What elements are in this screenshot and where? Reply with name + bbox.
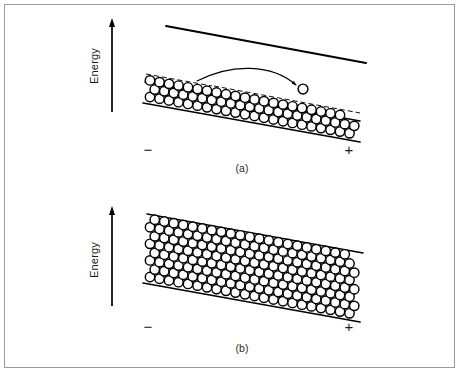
polarity-positive-b: + [345,318,354,335]
lattice-particle [255,234,264,243]
figure-root: Energy−+(a) Energy−+(b) [0,0,460,373]
lattice-particle [188,222,197,231]
lattice-particle [236,231,245,240]
energy-axis-b: Energy [88,206,115,306]
lattice-particle [221,90,230,99]
lattice-particle [321,246,330,255]
lattice-particle [164,79,173,88]
lattice-particle [264,236,273,245]
panel-caption-a: (a) [236,162,249,174]
lattice-particle [174,81,183,90]
excited-particle [298,84,308,94]
lattice-particle [155,77,164,86]
lattice-particle [160,217,169,226]
lattice-particle [316,107,325,116]
lattice-particle [350,121,359,130]
lattice-particle [150,215,159,224]
lattice-particle [226,229,235,238]
panel-b: Energy−+(b) [88,206,363,354]
energy-axis-arrowhead-b [109,206,115,215]
lattice-particle [179,220,188,229]
lattice-particle [345,259,354,268]
vacuum-level-line-a [166,26,366,63]
lattice-particle [169,219,178,228]
lattice-particle [231,91,240,100]
polarity-positive-a: + [345,141,354,158]
polarity-negative-b: − [144,318,153,335]
lattice-particle [183,83,192,92]
panel-a: Energy−+(a) [88,18,366,174]
energy-band-diagram: Energy−+(a) Energy−+(b) [0,0,460,373]
lattice-particle [278,100,287,109]
lattice-particle [331,248,340,257]
lattice-particle [288,102,297,111]
lattice-particle [297,103,306,112]
lattice-particle [283,239,292,248]
lattice-particle [350,268,359,277]
lattice-particle [193,84,202,93]
lattice-particle [269,98,278,107]
lattice-particle [340,250,349,259]
energy-axis-a: Energy [88,18,115,112]
excitation-arrow [197,68,296,85]
excitation-arrow-path [197,68,296,85]
lattice-particle [202,86,211,95]
lattice-particle [350,301,359,310]
polarity-negative-a: − [144,141,153,158]
lattice-particle [240,93,249,102]
lattice-particle [312,244,321,253]
lattice-particle [259,96,268,105]
panel-caption-b: (b) [236,342,249,354]
lattice-particle [245,232,254,241]
energy-axis-arrowhead-a [109,18,115,27]
lattice-particle [350,285,359,294]
lattice-particle [274,238,283,247]
lattice-particle [207,225,216,234]
lattice-particle [335,110,344,119]
lattice-particle [198,224,207,233]
lattice-particle [293,241,302,250]
lattice-particle [212,88,221,97]
lattice-particle [145,76,154,85]
lattice-particle [302,243,311,252]
lattice-particle [326,109,335,118]
lattice-particle [217,227,226,236]
energy-axis-label-b: Energy [88,242,100,278]
lattice-particle [340,119,349,128]
energy-axis-label-a: Energy [88,48,100,84]
lattice-particle [307,105,316,114]
lattice-particle [250,95,259,104]
